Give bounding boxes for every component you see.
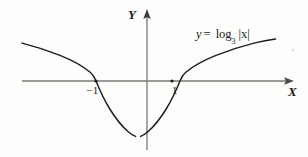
axis-label-x: X xyxy=(288,85,297,98)
equation-log-name: log xyxy=(213,27,232,41)
equation-argument: |x| xyxy=(236,27,250,41)
page-speck-artifact xyxy=(292,49,294,51)
intersection-dot-one xyxy=(170,79,173,82)
curve-left-branch xyxy=(22,43,136,136)
plot-canvas xyxy=(0,0,308,157)
function-equation-label: y=log3|x| xyxy=(196,28,250,44)
curve-right-branch xyxy=(141,39,276,136)
figure-log-base-3-abs-x: Y X −1 1 y=log3|x| xyxy=(0,0,308,157)
equation-log-base: 3 xyxy=(232,37,236,46)
axis-label-y: Y xyxy=(128,8,136,21)
tick-label-neg-one: −1 xyxy=(86,85,99,96)
equation-y-variable: y xyxy=(196,27,202,41)
tick-label-one: 1 xyxy=(172,85,178,96)
equation-equals-sign: = xyxy=(202,27,213,41)
intersection-dot-neg-one xyxy=(94,79,97,82)
